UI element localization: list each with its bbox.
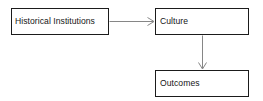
node-culture-label: Culture (156, 17, 188, 26)
node-historical-institutions-label: Historical Institutions (12, 17, 95, 26)
node-historical-institutions[interactable]: Historical Institutions (11, 8, 109, 35)
edge-culture-to-outcomes (199, 36, 207, 70)
diagram-canvas: Historical Institutions Culture Outcomes (0, 0, 263, 101)
node-culture[interactable]: Culture (155, 8, 249, 35)
edge-historical-institutions-to-culture (110, 18, 155, 26)
node-outcomes-label: Outcomes (156, 79, 200, 88)
node-outcomes[interactable]: Outcomes (155, 70, 249, 97)
